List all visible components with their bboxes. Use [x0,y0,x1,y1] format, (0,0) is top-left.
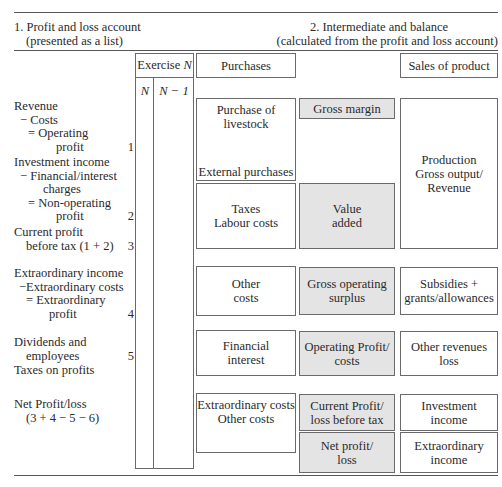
list-line: − Financial/interest [14,170,134,184]
box-label: Financial [223,339,270,353]
box-label: costs [234,291,259,305]
sales-of-product-box: Sales of product [400,53,498,78]
box-label: income [431,453,468,467]
list-line: charges [14,183,134,197]
taxes-labour-box: Taxes Labour costs [196,183,296,249]
list-line: = Operating [14,127,134,141]
list-group-dividends: Dividends and employees 5 [14,336,134,363]
extraordinary-income-box: Extraordinary income [400,432,498,473]
list-line: = Non-operating [14,197,134,211]
exercise-table [135,53,194,469]
box-label: Current Profit/ [310,399,383,413]
box-label: Subsidies + [420,277,478,291]
box-label: income [431,413,468,427]
box-label: Other [232,277,260,291]
box-label: Extraordinary [414,439,483,453]
box-label: interest [228,353,265,367]
list-group-taxes: Taxes on profits [14,364,134,378]
list-line: Investment income [14,156,134,170]
external-purchases-label: External purchases [199,165,294,179]
list-line: (3 + 4 − 5 − 6) [14,412,134,426]
exercise-column-divider [153,77,154,469]
box-label: added [332,216,362,230]
exercise-header-divider [135,77,194,78]
bottom-rule [14,475,498,476]
list-line: − Costs [14,114,134,128]
box-label: Operating Profit/ [304,340,389,354]
investment-income-box: Investment income [400,394,498,431]
exercise-col-n: N [137,84,153,99]
list-line: Current profit [14,226,134,240]
box-label: loss [439,354,458,368]
list-number: 4 [128,308,134,322]
box-label: Gross margin [313,102,380,116]
purchase-livestock-box: Purchase of livestock External purchases [196,98,296,181]
exercise-header: Exercise N [136,58,193,72]
list-line: employees [14,350,134,364]
section2-heading: 2. Intermediate and balance (calculated … [230,20,498,48]
box-label: Other costs [218,412,275,426]
list-number: 1 [128,141,134,155]
list-group-net-profit: Net Profit/loss (3 + 4 − 5 − 6) [14,398,134,425]
gross-operating-surplus-box: Gross operating surplus [299,267,395,315]
production-box: Production Gross output/ Revenue [400,98,498,249]
list-line: Revenue [14,100,134,114]
value-added-box: Value added [299,183,395,249]
subsidies-box: Subsidies + grants/allowances [400,267,498,315]
list-line: −Extraordinary costs [14,281,134,295]
list-line: before tax (1 + 2) [14,240,134,254]
operating-profit-box: Operating Profit/ costs [299,331,395,376]
box-label: costs [335,354,360,368]
section2-subtitle: (calculated from the profit and loss acc… [230,34,498,48]
box-label: grants/allowances [404,291,494,305]
list-line: Net Profit/loss [14,398,134,412]
box-label: Gross operating [307,277,387,291]
list-line: Taxes on profits [14,364,134,378]
box-label: surplus [329,291,365,305]
list-number: 5 [128,350,134,364]
list-line: profit [14,210,134,224]
box-label: Labour costs [214,216,278,230]
purchases-box: Purchases [196,53,296,78]
list-group-operating-profit: Revenue − Costs = Operating profit 1 [14,100,134,154]
other-revenues-box: Other revenues loss [400,331,498,376]
list-group-current-profit: Current profit before tax (1 + 2) 3 [14,226,134,253]
box-label: loss before tax [311,413,384,427]
header-rule [14,50,498,51]
list-line: Extraordinary income [14,267,134,281]
section2-title: 2. Intermediate and balance [230,20,498,34]
box-label: livestock [217,117,276,131]
box-label: Taxes [232,202,261,216]
section1-heading: 1. Profit and loss account (presented as… [14,20,141,48]
net-profit-box: Net profit/ loss [299,432,395,473]
list-number: 3 [128,240,134,254]
list-line: profit [14,141,134,155]
section1-title: 1. Profit and loss account [14,20,141,34]
box-label: Value [333,202,361,216]
box-label: Gross output/ [415,167,483,181]
list-group-extraordinary-profit: Extraordinary income −Extraordinary cost… [14,267,134,321]
box-label: loss [337,453,356,467]
financial-interest-box: Financial interest [196,330,296,376]
box-label: Net profit/ [321,439,373,453]
box-label: Other revenues [411,340,487,354]
list-number: 2 [128,210,134,224]
exercise-col-n-minus-1: N − 1 [154,84,194,99]
exercise-header-label: Exercise [137,58,183,72]
gross-margin-box: Gross margin [299,98,395,119]
current-profit-box: Current Profit/ loss before tax [299,394,395,431]
list-line: = Extraordinary [14,294,134,308]
exercise-header-var: N [183,58,191,72]
box-label: Sales of product [408,59,489,73]
box-label: Production [422,153,477,167]
section1-subtitle: (presented as a list) [14,34,141,48]
box-label: Revenue [427,181,471,195]
box-label: Purchase of [217,103,276,117]
extraordinary-other-costs-box: Extraordinary costs Other costs [196,393,296,453]
top-rule [14,12,498,13]
box-label: Investment [421,399,477,413]
list-line: Dividends and [14,336,134,350]
list-group-non-operating-profit: Investment income − Financial/interest c… [14,156,134,224]
other-costs-box: Other costs [196,266,296,316]
list-line: profit [14,308,134,322]
